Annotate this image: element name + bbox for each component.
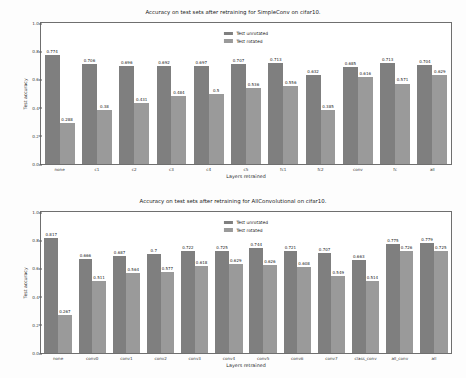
bar-value-label: 0.626 bbox=[264, 259, 275, 264]
bar-rotated bbox=[60, 123, 75, 164]
bar-rotated bbox=[434, 251, 448, 353]
chart-allconvolutional: Accuracy on test sets after retraining f… bbox=[0, 189, 466, 378]
bar-rotated bbox=[58, 315, 72, 353]
bar-value-label: 0.725 bbox=[435, 245, 446, 250]
bar-value-label: 0.7 bbox=[151, 248, 157, 253]
y-axis-tick: 0.6 bbox=[28, 266, 39, 271]
legend-swatch-icon bbox=[224, 32, 233, 35]
bar-unrotated bbox=[82, 64, 97, 164]
x-axis-tick: conv2 bbox=[154, 356, 166, 361]
bar-unrotated bbox=[306, 75, 321, 164]
bar-value-label: 0.556 bbox=[285, 80, 296, 85]
bar-value-label: 0.779 bbox=[421, 237, 432, 242]
bar-value-label: 0.431 bbox=[136, 97, 147, 102]
y-tick-mark bbox=[39, 240, 41, 241]
bar-unrotated bbox=[147, 254, 161, 353]
legend-label: Test unrotated bbox=[236, 220, 268, 225]
legend-item-rotated: Test rotated bbox=[224, 39, 268, 44]
x-axis-tick: all_conv bbox=[391, 356, 408, 361]
bar-rotated bbox=[246, 88, 261, 164]
x-axis-tick: fc1 bbox=[280, 167, 286, 172]
bar-unrotated bbox=[231, 64, 246, 164]
bar-value-label: 0.385 bbox=[322, 104, 333, 109]
y-tick-mark bbox=[39, 136, 41, 137]
y-tick-mark bbox=[39, 212, 41, 213]
legend-label: Test unrotated bbox=[236, 31, 268, 36]
bar-unrotated bbox=[249, 248, 263, 353]
bar-value-label: 0.536 bbox=[248, 82, 259, 87]
legend-item-rotated: Test rotated bbox=[224, 228, 268, 233]
x-axis-tick: none bbox=[55, 167, 65, 172]
bar-value-label: 0.697 bbox=[196, 60, 207, 65]
bar-unrotated bbox=[318, 253, 332, 353]
chart-simpleconv: Accuracy on test sets after retraining f… bbox=[0, 0, 466, 189]
bar-unrotated bbox=[79, 259, 93, 353]
bar-rotated bbox=[97, 110, 112, 164]
bar-value-label: 0.571 bbox=[397, 77, 408, 82]
bar-unrotated bbox=[284, 251, 298, 353]
x-axis-tick: fc bbox=[393, 167, 397, 172]
bar-value-label: 0.696 bbox=[121, 60, 132, 65]
y-axis-tick: 0.4 bbox=[28, 294, 39, 299]
bar-unrotated bbox=[215, 251, 229, 353]
y-tick-mark bbox=[39, 164, 41, 165]
x-axis-tick: c5 bbox=[244, 167, 249, 172]
y-tick-mark bbox=[39, 268, 41, 269]
bar-rotated bbox=[134, 103, 149, 164]
bar-rotated bbox=[358, 77, 373, 164]
bar-unrotated bbox=[194, 66, 209, 164]
bar-value-label: 0.713 bbox=[382, 57, 393, 62]
chart-legend: Test unrotated Test rotated bbox=[220, 218, 272, 235]
bar-unrotated bbox=[44, 238, 58, 353]
bar-value-label: 0.706 bbox=[84, 58, 95, 63]
bar-value-label: 0.288 bbox=[61, 117, 72, 122]
x-axis-tick: conv5 bbox=[257, 356, 269, 361]
x-axis-tick: class_conv bbox=[355, 356, 377, 361]
plot-axes: Test accuracy Layers retrained 0.00.20.4… bbox=[40, 22, 452, 165]
figure-page: Accuracy on test sets after retraining f… bbox=[0, 0, 466, 378]
bar-value-label: 0.629 bbox=[230, 258, 241, 263]
bar-unrotated bbox=[45, 55, 60, 164]
bar-unrotated bbox=[268, 63, 283, 164]
bar-unrotated bbox=[417, 65, 432, 164]
y-tick-mark bbox=[39, 108, 41, 109]
bar-value-label: 0.616 bbox=[360, 71, 371, 76]
bar-value-label: 0.38 bbox=[100, 104, 109, 109]
bar-rotated bbox=[92, 281, 106, 353]
y-axis-tick: 0.8 bbox=[28, 49, 39, 54]
bar-value-label: 0.725 bbox=[216, 245, 227, 250]
bar-value-label: 0.514 bbox=[367, 275, 378, 280]
bar-value-label: 0.721 bbox=[285, 245, 296, 250]
y-axis-tick: 1.0 bbox=[28, 21, 39, 26]
bar-rotated bbox=[161, 272, 175, 353]
bar-rotated bbox=[432, 75, 447, 164]
bar-rotated bbox=[263, 265, 277, 353]
y-axis-tick: 0.8 bbox=[28, 238, 39, 243]
bar-value-label: 0.549 bbox=[333, 270, 344, 275]
bar-unrotated bbox=[386, 244, 400, 353]
legend-swatch-icon bbox=[224, 221, 233, 224]
bar-value-label: 0.663 bbox=[353, 254, 364, 259]
legend-swatch-icon bbox=[224, 228, 233, 231]
bar-unrotated bbox=[113, 256, 127, 353]
x-axis-label: Layers retrained bbox=[41, 363, 451, 368]
y-tick-mark bbox=[39, 23, 41, 24]
bar-value-label: 0.685 bbox=[345, 61, 356, 66]
legend-label: Test rotated bbox=[236, 39, 262, 44]
y-axis-tick: 0.2 bbox=[28, 133, 39, 138]
bar-value-label: 0.774 bbox=[46, 49, 57, 54]
y-tick-mark bbox=[39, 325, 41, 326]
bar-value-label: 0.267 bbox=[59, 309, 70, 314]
x-axis-tick: c4 bbox=[206, 167, 211, 172]
bar-value-label: 0.687 bbox=[114, 250, 125, 255]
x-axis-tick: conv7 bbox=[325, 356, 337, 361]
legend-swatch-icon bbox=[224, 39, 233, 42]
bar-value-label: 0.629 bbox=[434, 69, 445, 74]
x-axis-tick: conv6 bbox=[291, 356, 303, 361]
bar-value-label: 0.618 bbox=[196, 260, 207, 265]
legend-item-unrotated: Test unrotated bbox=[224, 31, 268, 36]
y-tick-mark bbox=[39, 353, 41, 354]
x-axis-tick: c1 bbox=[94, 167, 99, 172]
bar-value-label: 0.608 bbox=[298, 261, 309, 266]
bar-rotated bbox=[283, 86, 298, 164]
